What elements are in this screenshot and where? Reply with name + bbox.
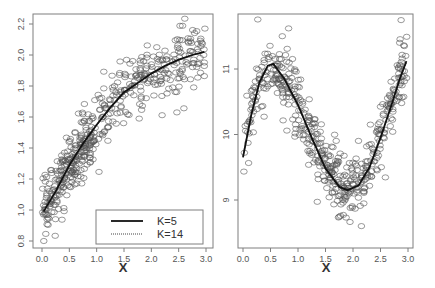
legend-box xyxy=(96,210,203,244)
svg-text:1.2: 1.2 xyxy=(16,173,26,186)
svg-text:2.2: 2.2 xyxy=(16,18,26,31)
svg-text:0.0: 0.0 xyxy=(237,254,250,264)
svg-text:3.0: 3.0 xyxy=(402,254,415,264)
svg-text:0.0: 0.0 xyxy=(36,254,49,264)
legend-label-k5: K=5 xyxy=(157,215,177,227)
svg-text:1.0: 1.0 xyxy=(90,254,103,264)
svg-text:0.5: 0.5 xyxy=(63,254,76,264)
legend: K=5 K=14 xyxy=(96,210,203,244)
svg-text:0.8: 0.8 xyxy=(16,235,26,248)
svg-text:2.5: 2.5 xyxy=(172,254,185,264)
svg-text:9: 9 xyxy=(221,197,231,202)
svg-text:10: 10 xyxy=(221,129,231,139)
right-scatter-plot: 0.00.51.01.52.02.53.091011 X xyxy=(221,14,414,275)
svg-text:1.4: 1.4 xyxy=(16,142,26,155)
svg-text:3.0: 3.0 xyxy=(200,254,213,264)
right-x-axis-label: X xyxy=(322,260,331,275)
svg-text:2.0: 2.0 xyxy=(16,49,26,62)
svg-text:1.0: 1.0 xyxy=(16,204,26,217)
right-fit-lines xyxy=(243,61,406,190)
svg-text:2.0: 2.0 xyxy=(347,254,360,264)
svg-text:11: 11 xyxy=(221,64,231,73)
legend-label-k14: K=14 xyxy=(157,228,183,240)
figure: 0.00.51.01.52.02.53.00.81.01.21.41.61.82… xyxy=(0,0,435,288)
left-x-axis-label: X xyxy=(119,260,128,275)
svg-text:0.5: 0.5 xyxy=(264,254,277,264)
svg-text:2.0: 2.0 xyxy=(145,254,158,264)
left-observation-points xyxy=(39,16,208,243)
svg-text:1.8: 1.8 xyxy=(16,80,26,93)
left-scatter-plot: 0.00.51.01.52.02.53.00.81.01.21.41.61.82… xyxy=(16,14,213,275)
svg-text:2.5: 2.5 xyxy=(374,254,387,264)
svg-text:1.0: 1.0 xyxy=(292,254,305,264)
svg-text:1.6: 1.6 xyxy=(16,111,26,124)
